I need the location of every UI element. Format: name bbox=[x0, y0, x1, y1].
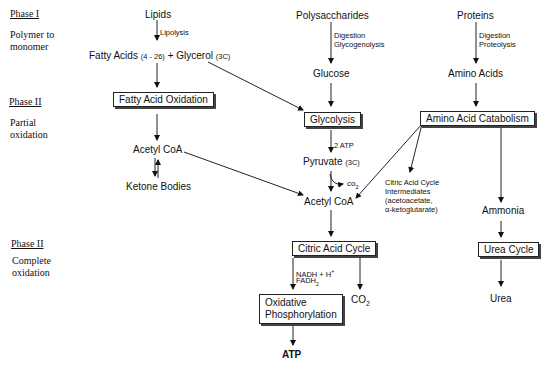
amino-acid-catabolism-box: Amino Acid Catabolism bbox=[420, 111, 535, 126]
digestion-label-proteins: Digestion bbox=[479, 31, 510, 40]
fadh-text: FADH bbox=[296, 276, 316, 285]
acetyl-coa-center-label: Acetyl CoA bbox=[304, 196, 353, 207]
two-atp-label: 2 ATP bbox=[334, 141, 354, 150]
oxidative-line-1: Oxidative bbox=[265, 297, 337, 309]
co2-product-label: CO2 bbox=[351, 294, 370, 307]
citric-acid-cycle-box: Citric Acid Cycle bbox=[292, 241, 376, 256]
proteolysis-label: Proteolysis bbox=[479, 40, 516, 49]
phase-1-description: Polymer to monomer bbox=[10, 29, 80, 53]
amino-acids-label: Amino Acids bbox=[448, 68, 503, 79]
cac-intermediates-line-4: α-ketoglutarate) bbox=[385, 205, 439, 214]
proteins-label: Proteins bbox=[457, 10, 494, 21]
phase-2-label: Phase II bbox=[9, 96, 42, 107]
co2-pyruvate-label: co2 bbox=[347, 179, 359, 192]
nadh-sup: + bbox=[331, 268, 334, 274]
oxidative-phosphorylation-box: Oxidative Phosphorylation bbox=[259, 294, 343, 324]
fatty-acids-carbons: (4 - 26) bbox=[141, 52, 165, 61]
glycerol-carbons: (3C) bbox=[216, 52, 231, 61]
co2-small-sub: 2 bbox=[355, 184, 358, 190]
polysaccharides-label: Polysaccharides bbox=[296, 10, 369, 21]
fadh2-label: FADH2 bbox=[296, 276, 319, 289]
urea-product-label: Urea bbox=[490, 293, 512, 304]
phase-1-label: Phase I bbox=[10, 8, 39, 19]
acetyl-coa-left-label: Acetyl CoA bbox=[133, 144, 182, 155]
fatty-acid-oxidation-box: Fatty Acid Oxidation bbox=[113, 92, 214, 107]
co2-sub: 2 bbox=[366, 300, 370, 307]
cac-intermediates-line-1: Citric Acid Cycle bbox=[385, 178, 439, 187]
phase-3-description: Complete oxidation bbox=[12, 255, 72, 279]
pyruvate-label: Pyruvate (3C) bbox=[303, 156, 360, 167]
glucose-label: Glucose bbox=[313, 68, 350, 79]
glycolysis-box: Glycolysis bbox=[304, 112, 361, 127]
fatty-acids-text: Fatty Acids bbox=[89, 50, 138, 61]
plus-sign: + bbox=[168, 50, 174, 61]
fadh-sub: 2 bbox=[316, 281, 319, 287]
pyruvate-carbons: (3C) bbox=[345, 158, 360, 167]
pyruvate-text: Pyruvate bbox=[303, 156, 342, 167]
cac-intermediates-label: Citric Acid Cycle Intermediates (acetoac… bbox=[385, 178, 439, 214]
arrow-acetyl-left-to-center bbox=[184, 152, 303, 195]
ketone-bodies-label: Ketone Bodies bbox=[126, 181, 191, 192]
urea-cycle-box: Urea Cycle bbox=[478, 242, 539, 257]
ammonia-label: Ammonia bbox=[482, 205, 524, 216]
fatty-acids-glycerol-label: Fatty Acids (4 - 26) + Glycerol (3C) bbox=[89, 50, 230, 61]
lipids-label: Lipids bbox=[145, 9, 171, 20]
cac-intermediates-line-3: (acetoacetate, bbox=[385, 196, 439, 205]
phase-2-description: Partial oxidation bbox=[10, 117, 70, 141]
atp-product-label: ATP bbox=[282, 349, 301, 360]
arrow-pyruvate-co2 bbox=[330, 174, 343, 184]
phase-3-label: Phase II bbox=[11, 238, 44, 249]
cac-intermediates-line-2: Intermediates bbox=[385, 187, 439, 196]
glycerol-text: Glycerol bbox=[176, 50, 213, 61]
arrow-glycerol-to-glycolysis bbox=[208, 62, 303, 110]
oxidative-line-2: Phosphorylation bbox=[265, 309, 337, 321]
lipolysis-label: Lipolysis bbox=[160, 28, 189, 37]
glycogenolysis-label: Glycogenolysis bbox=[334, 40, 384, 49]
co2-text: CO bbox=[351, 294, 366, 305]
digestion-label-carbs: Digestion bbox=[334, 31, 365, 40]
